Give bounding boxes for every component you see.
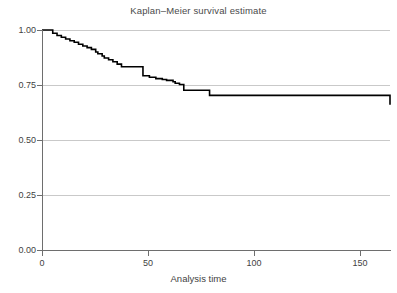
- x-tick-mark-100: [254, 251, 255, 256]
- x-tick-label-100: 100: [234, 258, 274, 268]
- kaplan-meier-figure: Kaplan–Meier survival estimate 1.00 0.75…: [0, 0, 397, 293]
- y-tick-label-0.00: 0.00: [18, 245, 36, 255]
- y-tick-mark-0.25: [37, 195, 42, 196]
- x-tick-label-50: 50: [128, 258, 168, 268]
- y-axis-line: [42, 30, 43, 251]
- x-tick-mark-150: [360, 251, 361, 256]
- y-tick-label-1.00: 1.00: [18, 25, 36, 35]
- y-tick-mark-0.50: [37, 140, 42, 141]
- y-tick-label-0.50: 0.50: [18, 135, 36, 145]
- survival-step-curve: [42, 30, 390, 250]
- y-tick-label-0.75: 0.75: [18, 80, 36, 90]
- chart-title: Kaplan–Meier survival estimate: [0, 5, 397, 16]
- x-tick-label-150: 150: [340, 258, 380, 268]
- x-axis-title: Analysis time: [0, 273, 397, 284]
- y-tick-label-0.25: 0.25: [18, 190, 36, 200]
- x-tick-mark-0: [42, 251, 43, 256]
- y-tick-mark-1.00: [37, 30, 42, 31]
- y-tick-mark-0.75: [37, 85, 42, 86]
- x-axis-line: [42, 250, 391, 251]
- x-tick-mark-50: [148, 251, 149, 256]
- x-tick-label-0: 0: [22, 258, 62, 268]
- plot-region: [42, 30, 390, 250]
